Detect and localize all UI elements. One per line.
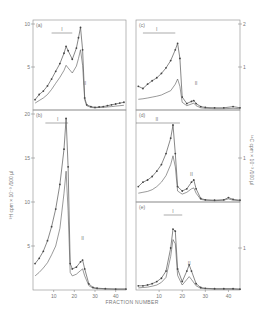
data-point-marker bbox=[59, 184, 61, 186]
data-point-marker bbox=[193, 100, 195, 102]
data-point-marker bbox=[165, 153, 167, 155]
data-point-marker bbox=[147, 284, 149, 286]
data-point-marker bbox=[84, 268, 86, 270]
peak-label: II bbox=[190, 171, 193, 177]
data-point-marker bbox=[186, 103, 188, 105]
panel-d: (d)1IIII bbox=[136, 110, 246, 202]
data-point-marker bbox=[82, 259, 84, 261]
series-14c-line bbox=[35, 171, 126, 289]
data-point-marker bbox=[232, 106, 234, 108]
data-point-marker bbox=[191, 270, 193, 272]
peak-label: I bbox=[57, 116, 58, 122]
chromatography-figure: (a)510III(b)510152010203040III(c)12III(d… bbox=[0, 0, 266, 322]
data-point-marker bbox=[142, 181, 144, 183]
peak-label: II bbox=[188, 260, 191, 266]
peak-label: II bbox=[83, 80, 86, 86]
series-14c-line bbox=[138, 79, 240, 109]
data-point-marker bbox=[115, 103, 117, 105]
data-point-marker bbox=[51, 78, 53, 80]
y-tick-label: 10 bbox=[24, 199, 30, 205]
data-point-marker bbox=[80, 27, 82, 29]
y-tick-label: 1 bbox=[243, 64, 246, 70]
panel-frame bbox=[136, 202, 240, 290]
series-3h-line bbox=[35, 27, 124, 107]
data-point-marker bbox=[137, 285, 139, 287]
data-point-marker bbox=[186, 188, 188, 190]
peak-label: I bbox=[156, 26, 157, 32]
data-point-marker bbox=[80, 261, 82, 263]
data-point-marker bbox=[137, 85, 139, 87]
data-point-marker bbox=[195, 103, 197, 105]
data-point-marker bbox=[47, 85, 49, 87]
data-point-marker bbox=[42, 250, 44, 252]
data-point-marker bbox=[65, 118, 67, 120]
data-point-marker bbox=[76, 266, 78, 268]
data-point-marker bbox=[67, 166, 69, 168]
data-point-marker bbox=[47, 240, 49, 242]
series-14c-line bbox=[138, 156, 240, 201]
data-point-marker bbox=[67, 50, 69, 52]
panel-frame bbox=[136, 20, 240, 110]
data-point-marker bbox=[161, 73, 163, 75]
data-point-marker bbox=[172, 228, 174, 230]
y-tick-label: 10 bbox=[24, 21, 30, 27]
data-point-marker bbox=[78, 37, 80, 39]
data-point-marker bbox=[34, 99, 36, 101]
data-point-marker bbox=[161, 277, 163, 279]
data-point-marker bbox=[38, 257, 40, 259]
data-point-marker bbox=[151, 283, 153, 285]
panel-c: (c)12III bbox=[136, 20, 246, 110]
data-point-marker bbox=[55, 70, 57, 72]
y-tick-label: 20 bbox=[24, 111, 30, 117]
data-point-marker bbox=[55, 208, 57, 210]
data-point-marker bbox=[119, 102, 121, 104]
data-point-marker bbox=[191, 181, 193, 183]
data-point-marker bbox=[195, 188, 197, 190]
y-tick-label: 1 bbox=[243, 245, 246, 251]
data-point-marker bbox=[156, 77, 158, 79]
panel-label: (a) bbox=[36, 22, 42, 28]
data-point-marker bbox=[65, 45, 67, 47]
series-3h-line bbox=[35, 118, 126, 289]
x-tick-label: 30 bbox=[92, 293, 98, 299]
panel-label: (d) bbox=[139, 112, 145, 118]
y-tick-label: 2 bbox=[243, 21, 246, 27]
data-point-marker bbox=[63, 52, 65, 54]
panel-e: (e)110203040III bbox=[136, 202, 246, 299]
data-point-marker bbox=[38, 94, 40, 96]
data-point-marker bbox=[161, 164, 163, 166]
panel-label: (e) bbox=[139, 204, 145, 210]
data-point-marker bbox=[174, 153, 176, 155]
peak-label: II bbox=[81, 235, 84, 241]
x-tick-label: 20 bbox=[72, 293, 78, 299]
y-tick-label: 5 bbox=[27, 64, 30, 70]
data-point-marker bbox=[156, 170, 158, 172]
panel-frame bbox=[136, 110, 240, 202]
data-point-marker bbox=[165, 270, 167, 272]
series-3h-line bbox=[138, 43, 240, 108]
data-point-marker bbox=[165, 67, 167, 69]
data-point-marker bbox=[186, 270, 188, 272]
data-point-marker bbox=[170, 247, 172, 249]
peak-label: I bbox=[172, 208, 173, 214]
data-point-marker bbox=[42, 90, 44, 92]
x-tick-label: 30 bbox=[203, 293, 209, 299]
data-point-marker bbox=[156, 281, 158, 283]
panel-label: (b) bbox=[36, 112, 42, 118]
data-point-marker bbox=[170, 60, 172, 62]
data-point-marker bbox=[195, 283, 197, 285]
data-point-marker bbox=[63, 148, 65, 150]
y-axis-label-right: ¹⁴C cpm × 10⁻³ /100 µl bbox=[249, 135, 255, 186]
data-point-marker bbox=[142, 285, 144, 287]
data-point-marker bbox=[181, 281, 183, 283]
x-tick-label: 10 bbox=[51, 293, 57, 299]
data-point-marker bbox=[59, 63, 61, 65]
data-point-marker bbox=[151, 80, 153, 82]
data-point-marker bbox=[170, 137, 172, 139]
data-point-marker bbox=[174, 230, 176, 232]
data-point-marker bbox=[71, 58, 73, 60]
data-point-marker bbox=[147, 83, 149, 85]
peak-label: II bbox=[195, 80, 198, 86]
peak-label: II bbox=[155, 116, 158, 122]
data-point-marker bbox=[76, 47, 78, 49]
